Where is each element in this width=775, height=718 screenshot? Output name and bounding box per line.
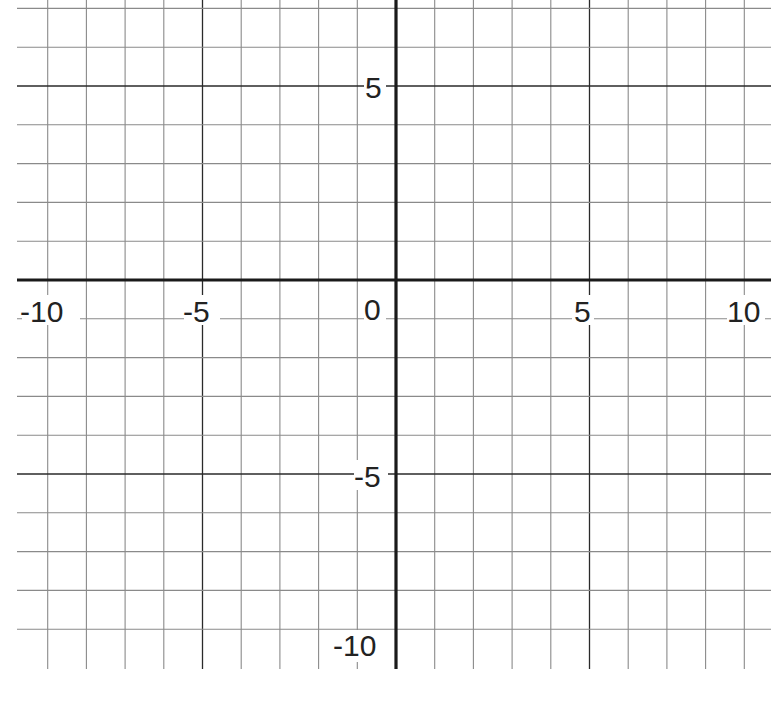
axes bbox=[17, 0, 771, 669]
x-tick-label-neg10: -10 bbox=[20, 295, 63, 328]
y-tick-label-neg10: -10 bbox=[333, 629, 376, 662]
grid-lines bbox=[17, 0, 771, 669]
x-tick-label-10: 10 bbox=[727, 295, 760, 328]
x-tick-label-neg5: -5 bbox=[183, 295, 210, 328]
coordinate-grid: -10 -5 0 5 10 5 -5 -10 bbox=[0, 0, 775, 718]
origin-label: 0 bbox=[364, 293, 381, 326]
y-tick-label-5: 5 bbox=[365, 71, 382, 104]
y-tick-label-neg5: -5 bbox=[354, 460, 381, 493]
tick-labels: -10 -5 0 5 10 5 -5 -10 bbox=[20, 71, 765, 662]
x-tick-label-5: 5 bbox=[574, 295, 591, 328]
